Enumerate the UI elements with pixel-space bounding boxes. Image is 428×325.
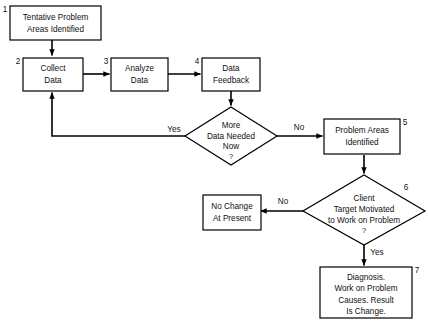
node-diagnosis-line-2: Work on Problem <box>334 284 397 293</box>
node-problem-areas-identified[interactable] <box>324 119 400 154</box>
node-number-2: 2 <box>16 57 21 66</box>
node-number-1: 1 <box>3 5 8 14</box>
node-no-change-at-present[interactable] <box>203 195 261 230</box>
node-diagnosis-line-4: Is Change. <box>346 307 386 316</box>
node-number-7: 7 <box>415 266 420 275</box>
node-nochange-line-1: No Change <box>211 202 253 211</box>
decision-moredata-line-3: Now <box>223 142 239 151</box>
node-number-4: 4 <box>195 57 200 66</box>
node-feedback-line-1: Data <box>222 64 240 73</box>
node-number-3: 3 <box>104 57 109 66</box>
node-analyze-line-1: Analyze <box>125 64 155 73</box>
node-tentative-line-2: Areas Identified <box>27 25 84 34</box>
edge-label-client-yes: Yes <box>370 248 383 257</box>
decision-client-line-1: Client <box>354 194 376 203</box>
edge-label-moredata-no: No <box>294 123 305 132</box>
node-diagnosis-line-1: Diagnosis. <box>347 273 385 282</box>
decision-client-question-mark: ? <box>362 226 366 235</box>
node-problemareas-line-2: Identified <box>345 138 379 147</box>
edge-label-client-no: No <box>278 197 289 206</box>
node-collect-line-1: Collect <box>40 64 66 73</box>
node-nochange-line-2: At Present <box>213 214 252 223</box>
node-problemareas-line-1: Problem Areas <box>335 126 389 135</box>
node-number-5: 5 <box>403 118 408 127</box>
decision-moredata-line-2: Data Needed <box>207 132 256 141</box>
decision-moredata-line-1: More <box>222 121 241 130</box>
node-collect-line-2: Data <box>44 76 62 85</box>
decision-client-line-3: to Work on Problem <box>328 216 400 225</box>
flowchart-canvas: 1 Tentative Problem Areas Identified 2 C… <box>0 0 428 325</box>
node-diagnosis-line-3: Causes. Result <box>338 296 394 305</box>
node-number-6: 6 <box>404 183 409 192</box>
node-tentative-problem-areas[interactable] <box>10 6 101 40</box>
edge-label-moredata-yes: Yes <box>167 125 180 134</box>
decision-client-line-2: Target Motivated <box>334 205 395 214</box>
node-feedback-line-2: Feedback <box>213 76 250 85</box>
node-tentative-line-1: Tentative Problem <box>23 13 89 22</box>
flowchart-svg: 1 Tentative Problem Areas Identified 2 C… <box>0 0 428 325</box>
node-analyze-line-2: Data <box>131 76 149 85</box>
decision-moredata-question-mark: ? <box>229 152 233 161</box>
